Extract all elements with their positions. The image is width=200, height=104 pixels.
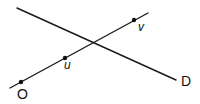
point-o (19, 80, 23, 84)
line-through-o-u-v (10, 13, 148, 88)
point-v (132, 18, 136, 22)
label-o: O (17, 86, 28, 102)
label-u: u (64, 58, 71, 72)
geometry-diagram: O u v D (0, 0, 200, 104)
label-v: v (138, 20, 145, 34)
line-d (17, 8, 176, 80)
label-d: D (181, 73, 191, 89)
